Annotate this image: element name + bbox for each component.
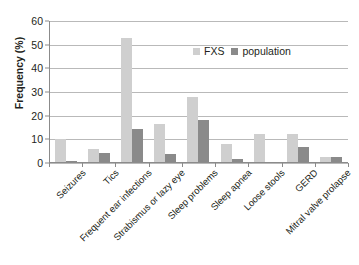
legend-swatch-fxs-icon [193, 48, 200, 55]
legend-label-population: population [242, 46, 290, 57]
x-label-text: Tics [101, 167, 121, 187]
x-label-text: Mitral valve prolapse [284, 167, 353, 236]
legend-swatch-population-icon [231, 48, 238, 55]
bar-fxs [55, 139, 66, 163]
y-axis-title: Frequency (%) [13, 13, 25, 133]
legend-item-population: population [231, 46, 290, 57]
x-label-text: GERD [293, 167, 320, 194]
bar-group [49, 21, 82, 163]
chart-legend: FXS population [193, 46, 291, 57]
bar-group [82, 21, 115, 163]
bar-population [132, 129, 143, 163]
bar-group [115, 21, 148, 163]
legend-label-fxs: FXS [204, 46, 224, 57]
bar-fxs [121, 38, 132, 163]
x-axis-labels: SeizuresTicsFrequent ear infectionsStrab… [49, 167, 348, 263]
legend-item-fxs: FXS [193, 46, 224, 57]
y-tick-label: 20 [31, 110, 43, 122]
y-tick-label: 0 [37, 157, 43, 169]
y-tick-label: 10 [31, 133, 43, 145]
y-tick-label: 60 [31, 15, 43, 27]
y-tick-label: 30 [31, 86, 43, 98]
y-axis-line [49, 21, 50, 163]
y-tick-label: 50 [31, 39, 43, 51]
x-label-text: Seizures [53, 167, 87, 201]
bar-chart: Frequency (%) 0102030405060 SeizuresTics… [0, 0, 359, 265]
y-tick-label: 40 [31, 62, 43, 74]
